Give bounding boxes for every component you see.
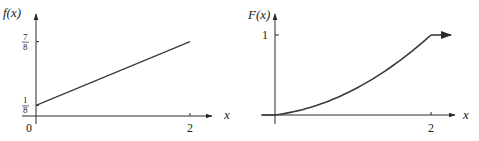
pdf-line (36, 42, 190, 106)
x-tick-label: 2 (187, 121, 193, 135)
y-tick-label-numerator: 1 (23, 95, 28, 105)
x-tick-label: 2 (428, 121, 434, 135)
y-tick-label-numerator: 7 (23, 32, 28, 42)
y-axis-label: F(x) (247, 7, 270, 22)
y-tick-label-denominator: 8 (23, 105, 28, 115)
y-axis-label: f(x) (3, 5, 21, 20)
pdf-chart: f(x) x 0 21878 (3, 5, 230, 135)
x-axis-label: x (223, 107, 230, 122)
cdf-chart: F(x) x 21 (247, 7, 469, 135)
figure: f(x) x 0 21878 F(x) x 21 (0, 0, 479, 141)
x-axis-label: x (462, 107, 469, 122)
origin-label: 0 (26, 121, 32, 135)
cdf-curve (275, 35, 431, 115)
y-tick-label-denominator: 8 (23, 42, 28, 52)
y-tick-label: 1 (262, 28, 268, 42)
